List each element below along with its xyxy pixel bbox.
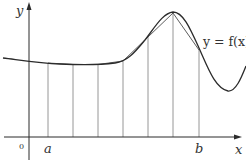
axes <box>4 6 237 160</box>
x-axis-label: x <box>235 142 243 157</box>
y-axis-label: y <box>15 3 24 18</box>
y-axis-arrow-icon <box>27 2 32 10</box>
b-label: b <box>195 141 203 156</box>
curve-label: y = f(x) <box>202 34 246 49</box>
a-label: a <box>44 141 52 156</box>
origin-label: 0 <box>19 142 24 151</box>
x-axis-arrow-icon <box>234 135 242 140</box>
curve-f <box>3 12 246 91</box>
trapezium-rule-diagram: y x 0 a b y = f(x) <box>0 0 246 160</box>
ordinates <box>48 13 199 137</box>
trapezoid-chords <box>48 13 199 65</box>
